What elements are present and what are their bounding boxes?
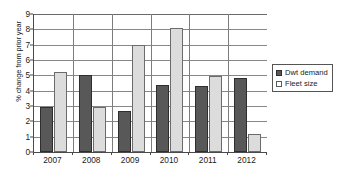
x-tick-label: 2012	[227, 155, 267, 165]
chart-legend: Dwt demandFleet size	[272, 64, 333, 92]
y-tick-label: 7	[14, 40, 30, 48]
x-tick-mark	[33, 152, 34, 155]
bar-dwt-demand-2007	[40, 107, 53, 152]
bar-fleet-size-2009	[132, 45, 145, 152]
bar-dwt-demand-2008	[79, 75, 92, 152]
legend-item-label: Dwt demand	[285, 68, 328, 77]
gridline-vertical	[112, 14, 113, 152]
gridline-vertical	[73, 14, 74, 152]
bar-dwt-demand-2011	[195, 86, 208, 152]
gridline-vertical	[151, 14, 152, 152]
bar-fleet-size-2011	[209, 76, 222, 152]
x-axis-ticks: 200720082009201020112012	[33, 155, 266, 171]
y-tick-label: 0	[14, 148, 30, 156]
bar-dwt-demand-2010	[156, 85, 169, 152]
x-tick-mark	[266, 152, 267, 155]
x-tick-mark	[227, 152, 228, 155]
bar-fleet-size-2010	[170, 28, 183, 152]
bar-dwt-demand-2009	[118, 111, 131, 152]
y-tick-label: 6	[14, 56, 30, 64]
x-tick-mark	[111, 152, 112, 155]
y-tick-label: 2	[14, 117, 30, 125]
bar-fleet-size-2008	[93, 107, 106, 152]
bar-fleet-size-2007	[54, 72, 67, 152]
x-tick-label: 2007	[32, 155, 72, 165]
bar-chart: % change from prior year 0123456789 2007…	[0, 0, 352, 176]
bar-fleet-size-2012	[248, 134, 261, 152]
hollow-square-icon	[276, 81, 282, 87]
y-tick-label: 1	[14, 132, 30, 140]
x-tick-mark	[72, 152, 73, 155]
plot-area	[33, 14, 267, 153]
y-tick-label: 3	[14, 102, 30, 110]
y-tick-label: 4	[14, 86, 30, 94]
x-tick-mark	[150, 152, 151, 155]
y-tick-label: 5	[14, 71, 30, 79]
gridline-vertical	[228, 14, 229, 152]
legend-item: Dwt demand	[276, 67, 328, 78]
bar-dwt-demand-2012	[234, 78, 247, 152]
x-tick-label: 2011	[188, 155, 228, 165]
filled-square-icon	[276, 70, 282, 76]
y-axis-ticks: 0123456789	[14, 14, 30, 152]
gridline-vertical	[189, 14, 190, 152]
legend-item: Fleet size	[276, 78, 328, 89]
x-tick-label: 2009	[110, 155, 150, 165]
x-tick-label: 2008	[71, 155, 111, 165]
y-tick-label: 9	[14, 10, 30, 18]
x-tick-mark	[188, 152, 189, 155]
x-tick-label: 2010	[149, 155, 189, 165]
legend-item-label: Fleet size	[285, 79, 318, 88]
y-tick-label: 8	[14, 25, 30, 33]
